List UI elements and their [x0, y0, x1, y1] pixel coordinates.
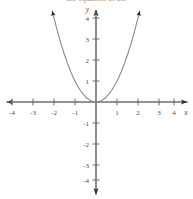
- y-tick-label-neg2: -2: [83, 141, 89, 149]
- x-tick-label-neg3: -3: [30, 109, 36, 117]
- y-tick-label-1: 1: [86, 78, 90, 86]
- x-tick-label-3: 3: [157, 109, 161, 117]
- x-tick-label-4: 4: [172, 109, 176, 117]
- graph-figure: the equation of the -4: [0, 0, 193, 199]
- y-tick-label-neg3: -3: [83, 162, 89, 170]
- y-axis-label: y: [85, 5, 90, 14]
- parabola-right-branch: [96, 11, 140, 102]
- y-tick-label-neg1: -1: [83, 120, 89, 128]
- parabola-left-branch: [52, 11, 96, 102]
- y-tick-label-neg4: -4: [83, 177, 89, 185]
- x-tick-label-neg1: -1: [72, 109, 78, 117]
- x-tick-label-2: 2: [136, 109, 140, 117]
- x-axis-label: x: [183, 108, 188, 117]
- x-axis-group: -4 -3 -2 -1 1 2 3 4 x: [6, 99, 188, 118]
- y-axis-group: 4 3 2 1 -1 -2 -3 -4 y: [83, 5, 99, 195]
- coordinate-plane: -4 -3 -2 -1 1 2 3 4 x 4 3: [0, 0, 193, 199]
- x-tick-label-neg2: -2: [51, 109, 57, 117]
- y-tick-label-4: 4: [86, 15, 90, 23]
- x-tick-label-neg4: -4: [9, 109, 15, 117]
- x-tick-label-1: 1: [115, 109, 119, 117]
- y-tick-label-2: 2: [86, 57, 90, 65]
- y-tick-label-3: 3: [86, 36, 90, 44]
